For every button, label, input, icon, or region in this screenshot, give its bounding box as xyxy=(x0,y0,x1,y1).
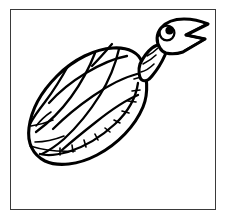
head-group xyxy=(157,19,208,54)
turtle-illustration xyxy=(0,0,226,221)
eye-pupil xyxy=(165,26,173,34)
image-canvas: Turtle line drawing xyxy=(0,0,226,221)
eye-group xyxy=(160,26,175,41)
shell-group xyxy=(29,44,147,164)
